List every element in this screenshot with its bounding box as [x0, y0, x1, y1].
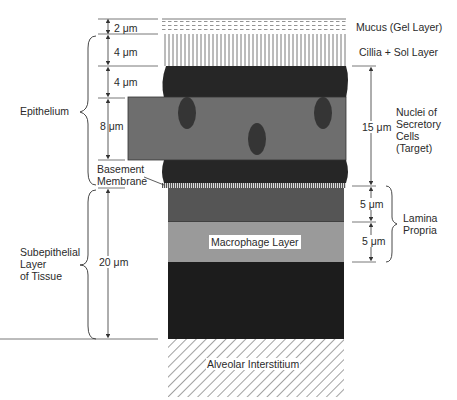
cilia-label: Cillia + Sol Layer — [359, 46, 438, 58]
macrophage-layer-label: Macrophage Layer — [209, 235, 301, 249]
mucus-layer — [162, 19, 346, 33]
subepithelial-layer — [168, 262, 344, 339]
nuclei-label-1: Nuclei of — [396, 106, 437, 118]
alveolar-interstitium-label: Alveolar Interstitium — [206, 358, 300, 370]
dim-label-lamina-upper: 5 μm — [360, 198, 384, 210]
epithelium-lower — [162, 160, 348, 183]
subepithelial-label-2: Layer — [20, 258, 46, 270]
dim-label-target: 15 μm — [362, 121, 391, 133]
dim-label-secretory-band: 8 μm — [100, 120, 124, 132]
dim-label-mucus: 2 μm — [114, 22, 138, 34]
lamina-propria-brace — [386, 186, 397, 262]
basement-membrane — [162, 183, 346, 188]
subepithelial-brace — [80, 190, 96, 339]
lamina-propria-label-2: Propria — [403, 224, 437, 236]
nuclei-label-3: Cells — [396, 130, 419, 142]
subepithelial-label-3: of Tissue — [20, 270, 62, 282]
epithelium-label: Epithelium — [20, 105, 69, 117]
dim-label-subepithelial: 20 μm — [99, 256, 128, 268]
cilia-layer — [162, 34, 346, 66]
dim-label-macrophage: 5 μm — [362, 235, 386, 247]
nucleus-1 — [178, 97, 196, 129]
nucleus-2 — [248, 123, 266, 155]
nuclei-label-4: (Target) — [396, 142, 432, 154]
lamina-propria-upper — [168, 188, 344, 222]
dim-label-cilia: 4 μm — [114, 46, 138, 58]
secretory-cell-band — [128, 97, 346, 160]
basement-membrane-label-2: Membrane — [97, 175, 147, 187]
subepithelial-label-1: Subepithelial — [20, 246, 80, 258]
dim-label-epithelium-upper: 4 μm — [114, 76, 138, 88]
nucleus-3 — [314, 97, 332, 129]
epithelium-brace — [80, 36, 96, 185]
epithelium-upper — [162, 66, 348, 98]
mucus-label: Mucus (Gel Layer) — [356, 21, 442, 33]
nuclei-label-2: Secretory — [396, 118, 441, 130]
basement-membrane-label-1: Basement — [97, 163, 144, 175]
tissue-diagram — [0, 0, 457, 400]
lamina-propria-label-1: Lamina — [403, 212, 437, 224]
